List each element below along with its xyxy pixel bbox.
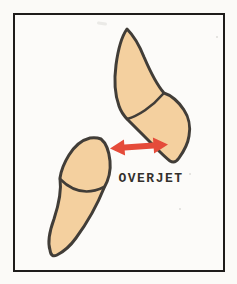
scan-speck	[189, 173, 191, 175]
overjet-diagram-photo: OVERJET	[0, 0, 237, 284]
upper-incisor-outline	[115, 29, 190, 162]
lower-incisor	[49, 138, 110, 256]
upper-incisor	[115, 29, 190, 162]
scan-speck	[216, 36, 218, 38]
overjet-diagram	[0, 0, 237, 284]
lower-incisor-outline	[49, 138, 110, 256]
scan-speck	[179, 208, 181, 210]
overjet-label: OVERJET	[114, 171, 188, 186]
